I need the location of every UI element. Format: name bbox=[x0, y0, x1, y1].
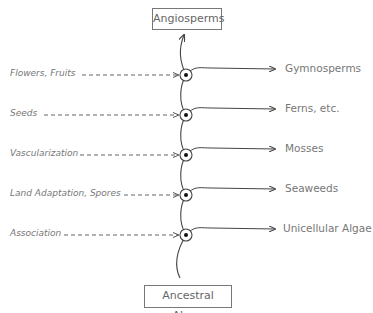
node-icon bbox=[180, 229, 192, 241]
node-icon bbox=[180, 69, 192, 81]
group-label: Gymnosperms bbox=[285, 62, 361, 74]
nodes bbox=[180, 69, 192, 241]
trait-label: Association bbox=[10, 228, 61, 238]
group-label: Unicellular Algae bbox=[283, 222, 372, 234]
node-icon bbox=[180, 109, 192, 121]
group-label: Ferns, etc. bbox=[285, 102, 340, 114]
group-label: Seaweeds bbox=[285, 182, 338, 194]
group-label: Mosses bbox=[285, 142, 323, 154]
trait-label: Vascularization bbox=[10, 148, 78, 158]
top-box-angiosperms: Angiosperms bbox=[152, 8, 222, 30]
trait-label: Flowers, Fruits bbox=[10, 68, 76, 78]
branches bbox=[189, 68, 275, 232]
trait-label: Land Adaptation, Spores bbox=[10, 188, 121, 198]
node-icon bbox=[180, 149, 192, 161]
node-icon bbox=[180, 189, 192, 201]
trait-label: Seeds bbox=[10, 108, 37, 118]
bottom-box-ancestral-algae: Ancestral Algae bbox=[144, 285, 232, 308]
